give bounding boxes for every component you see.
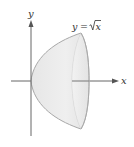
- equation-radicand: x: [96, 21, 102, 32]
- y-axis-label: y: [27, 8, 34, 19]
- curve-equation-label: y = x: [71, 21, 102, 33]
- x-axis-label: x: [121, 75, 127, 86]
- x-axis-arrow-icon: [112, 79, 119, 84]
- equation-lhs: y: [71, 21, 78, 32]
- paraboloid-diagram: y x y = x: [0, 0, 134, 147]
- y-axis-arrow-icon: [29, 20, 34, 27]
- equation-equals: =: [80, 21, 88, 32]
